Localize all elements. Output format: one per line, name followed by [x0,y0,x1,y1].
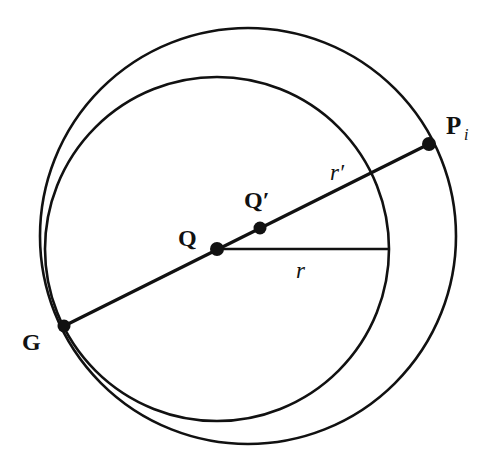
point-g [58,320,71,333]
point-q [210,242,224,256]
label-r: r [296,258,306,283]
label-g: G [22,329,41,355]
label-r-prime: r′ [330,160,345,185]
label-p: P [446,112,461,139]
label-q: Q [178,225,197,251]
point-q-prime [254,222,267,235]
geometry-diagram: G Q Q′ P i r′ r [0,0,493,459]
label-q-prime: Q′ [244,187,269,213]
point-pi [422,137,436,151]
line-g-to-pi [64,144,429,326]
label-p-subscript: i [464,126,468,143]
